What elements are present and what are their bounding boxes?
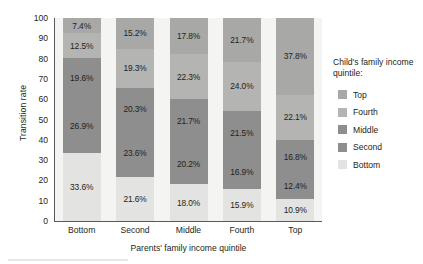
bar-column: 10.9%12.4%16.8%22.1%37.8% <box>276 18 314 221</box>
bar-segment-value-label: 12.5% <box>63 41 101 51</box>
bar-segment-value-label: 15.9% <box>223 200 261 210</box>
y-tick-label: 20 <box>20 175 48 185</box>
bar-segment-value-label: 18.0% <box>170 198 208 208</box>
stacked-bar-chart: Transition rate 1009080706050403020100 3… <box>0 0 423 264</box>
bar-segment: 22.1% <box>276 95 314 140</box>
legend-item[interactable]: Fourth <box>338 104 423 122</box>
bar-segment-value-label: 17.8% <box>170 31 208 41</box>
bar-segment-value-label: 22.3% <box>170 72 208 82</box>
page-edge-artifact <box>8 259 128 261</box>
bar-segment-value-label: 37.8% <box>276 51 314 61</box>
y-tick-label: 100 <box>20 13 48 23</box>
bar-segment-value-label: 21.7% <box>223 35 261 45</box>
bar-column: 15.9%16.9%21.5%24.0%21.7% <box>223 18 261 221</box>
x-tick-label: Fourth <box>215 225 268 235</box>
bar-segment: 20.2% <box>170 143 208 184</box>
bar-segment: 17.8% <box>170 18 208 54</box>
y-tick-label: 90 <box>20 33 48 43</box>
bar-segment: 12.5% <box>63 33 101 58</box>
bar-segment: 16.8% <box>276 140 314 174</box>
y-tick-label: 30 <box>20 155 48 165</box>
legend-item-label: Second <box>353 142 382 152</box>
bar-segment-value-label: 12.4% <box>276 181 314 191</box>
y-tick-label: 0 <box>20 216 48 226</box>
y-tick-label: 60 <box>20 94 48 104</box>
legend-title: Child's family income quintile: <box>333 57 421 79</box>
bar-segment-value-label: 20.2% <box>170 159 208 169</box>
bar-segment-value-label: 21.5% <box>223 128 261 138</box>
legend-item[interactable]: Top <box>338 86 423 104</box>
bar-segment: 21.7% <box>170 99 208 143</box>
bar-segment: 15.9% <box>223 189 261 221</box>
legend-item-label: Middle <box>353 125 378 135</box>
x-tick-label: Top <box>269 225 322 235</box>
bar-segment: 22.3% <box>170 54 208 99</box>
bar-segment-value-label: 19.3% <box>116 63 154 73</box>
bar-segment: 10.9% <box>276 199 314 221</box>
bar-segment: 26.9% <box>63 98 101 153</box>
bar-segment-value-label: 20.3% <box>116 104 154 114</box>
legend: Child's family income quintile: TopFourt… <box>333 57 423 174</box>
x-axis-tick-labels: BottomSecondMiddleFourthTop <box>55 225 322 239</box>
legend-item[interactable]: Bottom <box>338 156 423 174</box>
bar-segment-value-label: 10.9% <box>276 205 314 215</box>
bar-column: 33.6%26.9%19.6%12.5%7.4% <box>63 18 101 221</box>
legend-swatch-icon <box>338 160 347 169</box>
bar-segment: 21.7% <box>223 18 261 62</box>
bar-segment-value-label: 19.6% <box>63 73 101 83</box>
bar-segment-value-label: 21.7% <box>170 116 208 126</box>
legend-item-label: Fourth <box>353 107 378 117</box>
bar-segment: 7.4% <box>63 18 101 33</box>
bar-segment-value-label: 22.1% <box>276 112 314 122</box>
bar-segment: 37.8% <box>276 18 314 95</box>
y-tick-label: 50 <box>20 115 48 125</box>
plot-area: 33.6%26.9%19.6%12.5%7.4%21.6%23.6%20.3%1… <box>55 18 322 221</box>
bar-segment: 21.6% <box>116 177 154 221</box>
legend-swatch-icon <box>338 125 347 134</box>
bar-segment-value-label: 21.6% <box>116 194 154 204</box>
x-tick-label: Bottom <box>55 225 108 235</box>
bar-segment: 19.6% <box>63 58 101 98</box>
bar-segment: 20.3% <box>116 88 154 129</box>
bar-segment-value-label: 16.8% <box>276 152 314 162</box>
bar-segment-value-label: 16.9% <box>223 167 261 177</box>
bar-segment-value-label: 33.6% <box>63 182 101 192</box>
bar-segment: 23.6% <box>116 129 154 177</box>
y-tick-label: 80 <box>20 54 48 64</box>
bar-segment: 21.5% <box>223 111 261 155</box>
bar-segment: 33.6% <box>63 153 101 221</box>
bar-segment: 19.3% <box>116 49 154 88</box>
y-tick-label: 10 <box>20 196 48 206</box>
legend-item-list: TopFourthMiddleSecondBottom <box>333 86 423 174</box>
bar-segment: 18.0% <box>170 184 208 221</box>
bar-segment: 16.9% <box>223 154 261 188</box>
legend-item[interactable]: Second <box>338 139 423 157</box>
x-tick-label: Middle <box>162 225 215 235</box>
bar-segment-value-label: 26.9% <box>63 121 101 131</box>
bar-segment: 15.2% <box>116 18 154 49</box>
legend-item-label: Top <box>353 90 367 100</box>
legend-swatch-icon <box>338 108 347 117</box>
legend-item-label: Bottom <box>353 160 380 170</box>
bar-segment-value-label: 24.0% <box>223 81 261 91</box>
legend-swatch-icon <box>338 143 347 152</box>
legend-swatch-icon <box>338 90 347 99</box>
x-axis-line <box>54 221 322 222</box>
y-tick-label: 70 <box>20 74 48 84</box>
y-tick-label: 40 <box>20 135 48 145</box>
bar-segment-value-label: 23.6% <box>116 148 154 158</box>
y-axis-tick-labels: 1009080706050403020100 <box>20 14 48 222</box>
bar-column: 18.0%20.2%21.7%22.3%17.8% <box>170 18 208 221</box>
bar-column: 21.6%23.6%20.3%19.3%15.2% <box>116 18 154 221</box>
bar-segment: 24.0% <box>223 62 261 111</box>
legend-item[interactable]: Middle <box>338 121 423 139</box>
bar-segment: 12.4% <box>276 174 314 199</box>
x-tick-label: Second <box>108 225 161 235</box>
x-axis-title: Parents' family income quintile <box>55 243 322 253</box>
bar-segment-value-label: 15.2% <box>116 28 154 38</box>
bar-segment-value-label: 7.4% <box>63 21 101 31</box>
